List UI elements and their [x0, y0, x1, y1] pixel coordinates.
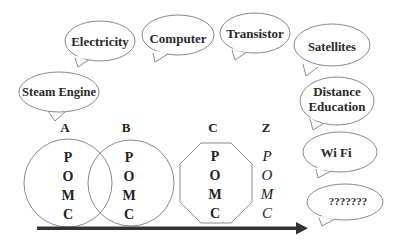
letter-c: C [210, 206, 220, 221]
letter-m: M [260, 186, 275, 202]
bubble-unknown: ??????? [307, 184, 383, 226]
bubble-text: ??????? [329, 195, 368, 207]
bubble-transistor: Transistor [220, 13, 290, 60]
letter-p: P [64, 150, 73, 165]
bubble-text: Computer [149, 31, 206, 46]
letter-o: O [63, 169, 74, 184]
stage-label-a: A [60, 120, 70, 135]
stage-label-z: Z [262, 120, 271, 135]
bubble-text-line2: Education [308, 99, 366, 114]
stage-a-letters: P O M C [61, 150, 74, 222]
stage-c-octagon: P O M C [180, 143, 252, 223]
letter-c: C [124, 207, 134, 222]
letter-c: C [63, 207, 73, 222]
letter-p: P [211, 149, 220, 164]
stage-label-b: B [122, 120, 131, 135]
bubble-text-line1: Distance [313, 84, 361, 99]
letter-p: P [125, 150, 134, 165]
letter-m: M [122, 188, 135, 203]
arrowhead-icon [296, 222, 308, 235]
bubble-text: Satellites [308, 40, 356, 54]
letter-m: M [61, 188, 74, 203]
bubble-text: Electricity [71, 34, 129, 49]
bubble-text: Transistor [226, 26, 284, 41]
stage-label-c: C [208, 120, 217, 135]
bubble-text: Steam Engine [22, 85, 96, 99]
bubble-electricity: Electricity [65, 21, 135, 67]
bubble-text: Wi Fi [320, 145, 352, 160]
stage-b-letters: P O M C [122, 150, 135, 222]
technology-evolution-diagram: Steam Engine Electricity Computer Transi… [0, 0, 402, 246]
letter-m: M [208, 187, 221, 202]
bubble-satellites: Satellites [294, 24, 370, 76]
letter-c: C [262, 205, 273, 221]
letter-o: O [124, 169, 135, 184]
letter-p: P [261, 148, 271, 164]
letter-o: O [210, 168, 221, 183]
bubble-distance-education: Distance Education [300, 77, 374, 130]
bubble-wifi: Wi Fi [303, 132, 377, 178]
bubble-steam-engine: Steam Engine [19, 72, 99, 121]
stage-z-letters: P O M C [260, 148, 275, 221]
timeline-arrow [37, 222, 308, 235]
letter-o: O [262, 167, 273, 183]
bubble-computer: Computer [142, 15, 214, 62]
